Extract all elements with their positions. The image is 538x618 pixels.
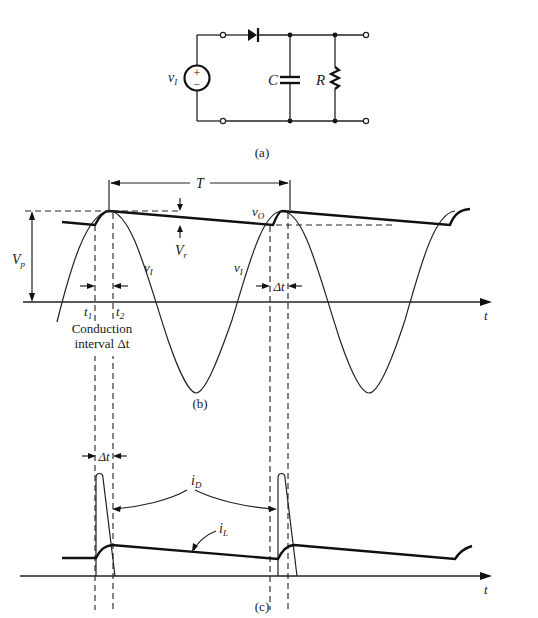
source-label: vI — [168, 70, 178, 87]
t2-label: t2 — [116, 304, 125, 321]
caption-c: (c) — [255, 599, 269, 614]
il-label: iL — [219, 521, 228, 538]
t1-label: t1 — [84, 304, 92, 321]
vp-label: Vp — [12, 252, 26, 269]
caption-b: (b) — [192, 396, 207, 411]
circuit-schematic: + − vI C R (a) — [168, 28, 369, 160]
id-label: iD — [191, 473, 202, 490]
minus-sign: − — [194, 77, 201, 91]
diode-icon — [248, 28, 258, 42]
output-terminal-top — [363, 32, 368, 37]
current-plot: t Δt iD iL (c) — [20, 449, 492, 614]
output-terminal-bottom — [363, 118, 368, 123]
input-terminal-top — [220, 32, 225, 37]
time-axis-label: t — [484, 308, 488, 323]
axis-arrow-icon — [480, 572, 492, 580]
delta-t-label-b: Δt — [272, 279, 285, 294]
rectifier-figure: + − vI C R (a) t — [0, 0, 538, 618]
vo-label: vO — [252, 204, 265, 221]
capacitor-icon — [280, 77, 300, 83]
axis-arrow-icon — [480, 298, 492, 306]
delta-t-label-c: Δt — [97, 449, 110, 464]
resistor-label: R — [315, 72, 325, 88]
resistor-icon — [331, 67, 339, 89]
vi-label-1: vI — [144, 260, 154, 277]
vi-label-2: vI — [234, 260, 244, 277]
vr-label: Vr — [175, 243, 188, 260]
caption-a: (a) — [255, 145, 269, 160]
conduction-label-line1: Conduction — [72, 321, 133, 336]
diode-current-pulse-1 — [96, 474, 115, 577]
input-terminal-bottom — [220, 118, 225, 123]
conduction-label-line2: interval Δt — [75, 336, 130, 351]
load-current-iL — [62, 545, 472, 559]
voltage-source-icon: + − — [185, 66, 210, 92]
time-axis-label-c: t — [484, 582, 488, 597]
capacitor-label: C — [268, 72, 279, 88]
voltage-plot: t T Vr vO Vp vI — [12, 176, 492, 610]
period-label: T — [196, 176, 205, 191]
